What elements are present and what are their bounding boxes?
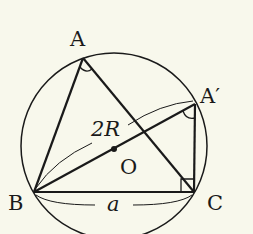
side-AB [34,58,83,192]
center-point-O [111,146,117,152]
brace-a-left [36,195,95,205]
side-A-prime-C [194,104,195,192]
label-a: a [107,192,120,216]
triangle-circle-diagram: A A′ B C O 2R a [0,0,253,234]
label-A-prime: A′ [199,84,220,108]
label-2R: 2R [90,117,120,141]
angle-mark-A-prime [183,111,195,118]
label-B: B [8,191,23,215]
label-C: C [207,191,223,215]
label-O: O [120,155,137,179]
label-A: A [69,27,86,51]
brace-a-right [133,195,192,205]
